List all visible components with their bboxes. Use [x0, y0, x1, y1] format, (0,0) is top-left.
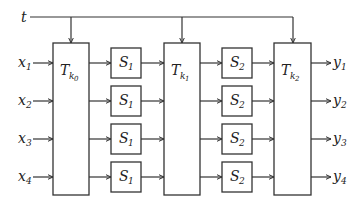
- block-t-k0: T k 0: [53, 43, 89, 195]
- input-x4-sub: 4: [25, 176, 32, 186]
- sbox-s1-row2-sub: 1: [128, 100, 134, 110]
- sbox-s1-row4-sub: 1: [128, 176, 134, 186]
- block-t-k0-subsub: 0: [74, 75, 79, 83]
- sbox-s2-row2-sub: 2: [238, 100, 245, 110]
- input-x2-base: x: [18, 92, 26, 108]
- tweak-line: t: [21, 9, 293, 43]
- block-t-k1: T k 1: [164, 43, 200, 195]
- block-t-k1-subsub: 1: [185, 75, 189, 83]
- block-t-k2: T k 2: [274, 43, 311, 195]
- sbox-s2-row3-sub: 2: [238, 138, 245, 148]
- sbox-s1-row3-sub: 1: [128, 138, 134, 148]
- input-x1-base: x: [18, 54, 26, 70]
- input-x3-base: x: [18, 130, 26, 146]
- output-y3-sub: 3: [341, 138, 347, 148]
- block-diagram: t T k 0 T k 1 T k 2 x 1 S 1 S 2: [0, 0, 364, 206]
- output-y4-sub: 4: [340, 176, 347, 186]
- input-x1-sub: 1: [26, 62, 32, 72]
- input-x3-sub: 3: [26, 138, 32, 148]
- input-x4-base: x: [18, 168, 26, 184]
- sbox-s2-row4-sub: 2: [238, 176, 245, 186]
- input-x2-sub: 2: [25, 100, 32, 110]
- output-y1-sub: 1: [341, 62, 347, 72]
- output-y2-sub: 2: [340, 100, 347, 110]
- sbox-s2-row1-sub: 2: [238, 62, 245, 72]
- block-t-k2-subsub: 2: [294, 75, 300, 83]
- tweak-label: t: [21, 9, 27, 25]
- sbox-s1-row1-sub: 1: [128, 62, 134, 72]
